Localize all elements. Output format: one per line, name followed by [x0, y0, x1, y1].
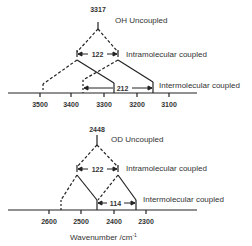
- top-tick-label: 3500: [32, 101, 48, 108]
- bottom-inter-label: Intermolecular coupled: [143, 195, 224, 204]
- top-tick-label: 3200: [129, 101, 145, 108]
- top-uncoupled-label: OH Uncoupled: [115, 16, 167, 25]
- bottom-intra-split: 122: [92, 166, 104, 173]
- top-intra-split: 122: [92, 51, 104, 58]
- bottom-inter-split: 114: [110, 200, 121, 207]
- bottom-tick-label: 2500: [73, 218, 89, 225]
- bottom-uncoupled-label: OD Uncoupled: [111, 135, 163, 144]
- top-inter-label: Intermolecular coupled: [159, 81, 240, 90]
- top-intra-label: Intramolecular coupled: [126, 50, 207, 59]
- bottom-apex-value: 2448: [89, 126, 105, 133]
- energy-level-diagram: 3317 OH Uncoupled 122 Intramolecular cou…: [0, 0, 252, 246]
- top-tick-label: 3400: [63, 101, 79, 108]
- bottom-tick-label: 2300: [138, 218, 154, 225]
- bottom-intra-label: Intramolecular coupled: [126, 164, 207, 173]
- top-inter-split: 212: [117, 85, 129, 92]
- bottom-tick-label: 2400: [106, 218, 122, 225]
- top-apex-value: 3317: [90, 6, 106, 13]
- bottom-tick-label: 2600: [41, 218, 57, 225]
- top-tick-label: 3100: [161, 101, 177, 108]
- x-axis-label: Wavenumber /cm-1: [70, 232, 137, 242]
- top-tick-label: 3300: [96, 101, 112, 108]
